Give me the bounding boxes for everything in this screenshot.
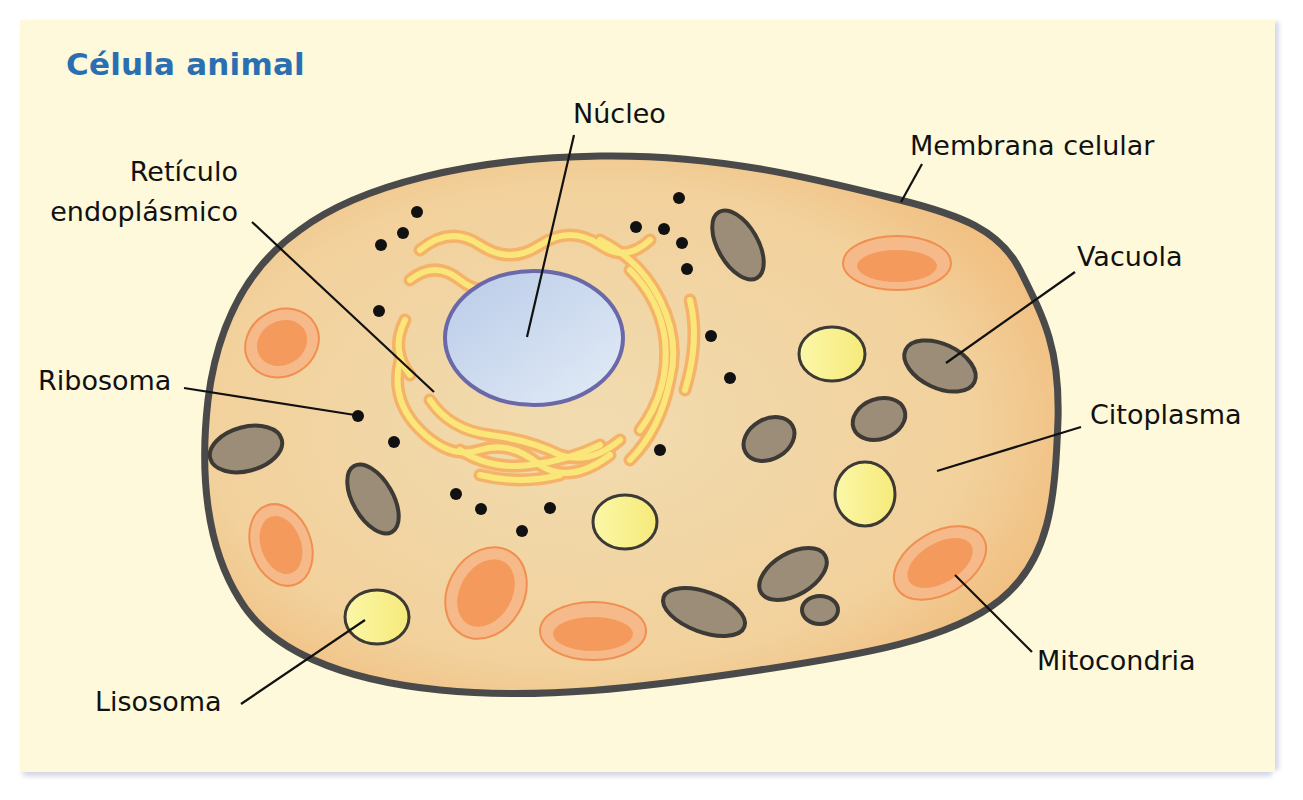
ribosome — [630, 221, 642, 233]
ribosome — [397, 227, 409, 239]
label-er-line1: Retículo — [40, 154, 238, 190]
ribosome — [352, 410, 364, 422]
lysosome — [799, 327, 865, 381]
ribosome — [654, 444, 666, 456]
vacuole — [802, 596, 838, 624]
ribosome — [673, 192, 685, 204]
label-vacuole: Vacuola — [1077, 239, 1182, 275]
ribosome — [658, 223, 670, 235]
ribosome — [411, 206, 423, 218]
diagram-title: Célula animal — [66, 46, 305, 82]
ribosome — [676, 237, 688, 249]
label-nucleus: Núcleo — [573, 96, 666, 132]
mitochondrion-cristae — [857, 250, 937, 282]
label-lysosome: Lisosoma — [95, 684, 222, 720]
ribosome — [475, 503, 487, 515]
mitochondrion-cristae — [553, 617, 633, 651]
ribosome — [705, 330, 717, 342]
ribosome — [724, 372, 736, 384]
ribosome — [450, 488, 462, 500]
lysosome — [345, 590, 409, 644]
lysosome — [593, 495, 657, 549]
ribosome — [388, 436, 400, 448]
ribosome — [544, 502, 556, 514]
label-ribosome: Ribosoma — [38, 363, 171, 399]
label-er-line2: endoplásmico — [40, 194, 238, 230]
ribosome — [375, 239, 387, 251]
label-membrane: Membrana celular — [910, 128, 1154, 164]
leader-membrane — [901, 164, 922, 202]
ribosome — [516, 525, 528, 537]
lysosome — [835, 462, 895, 526]
ribosome — [373, 305, 385, 317]
label-mitochondria: Mitocondria — [1037, 643, 1196, 679]
nucleus — [445, 271, 623, 405]
label-cytoplasm: Citoplasma — [1090, 397, 1242, 433]
ribosome — [681, 263, 693, 275]
